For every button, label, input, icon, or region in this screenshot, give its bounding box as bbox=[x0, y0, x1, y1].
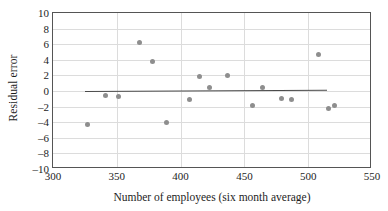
gridline-horizontal bbox=[53, 122, 370, 123]
y-tick-label: –8 bbox=[38, 148, 49, 159]
data-point bbox=[289, 97, 294, 102]
x-tick-label: 400 bbox=[172, 170, 189, 182]
data-point bbox=[85, 122, 90, 127]
y-tick-label: 2 bbox=[44, 70, 50, 81]
data-point bbox=[103, 93, 108, 98]
data-point bbox=[326, 106, 331, 111]
y-tick-label: –2 bbox=[38, 101, 49, 112]
y-tick-label: 6 bbox=[44, 39, 50, 50]
y-axis-title: Residual error bbox=[6, 4, 20, 172]
y-tick-label: 10 bbox=[38, 8, 49, 19]
gridline-horizontal bbox=[53, 107, 370, 108]
y-tick-label: –4 bbox=[38, 117, 49, 128]
gridline-horizontal bbox=[53, 44, 370, 45]
data-point bbox=[164, 120, 169, 125]
data-point bbox=[197, 74, 202, 79]
y-tick-label: 0 bbox=[44, 86, 50, 97]
y-tick-label: –6 bbox=[38, 132, 49, 143]
gridline-horizontal bbox=[53, 60, 370, 61]
plot-area: 1086420–2–4–6–8–10 300350400450500550 bbox=[52, 12, 371, 168]
x-tick-label: 500 bbox=[300, 170, 317, 182]
gridline-horizontal bbox=[53, 75, 370, 76]
gridline-horizontal bbox=[53, 153, 370, 154]
data-point bbox=[150, 59, 155, 64]
x-tick-label: 550 bbox=[364, 170, 381, 182]
data-point bbox=[187, 97, 192, 102]
data-point bbox=[250, 103, 255, 108]
x-tick-label: 450 bbox=[236, 170, 253, 182]
gridline-horizontal bbox=[53, 138, 370, 139]
x-tick-label: 350 bbox=[109, 170, 126, 182]
data-point bbox=[225, 73, 230, 78]
y-tick-label: 8 bbox=[44, 23, 50, 34]
y-tick-label: 4 bbox=[44, 54, 50, 65]
data-point bbox=[116, 94, 121, 99]
data-point bbox=[279, 96, 284, 101]
residual-scatter-chart: Residual error 1086420–2–4–6–8–10 300350… bbox=[0, 0, 388, 211]
x-axis-title: Number of employees (six month average) bbox=[52, 190, 372, 204]
data-point bbox=[316, 52, 321, 57]
gridline-horizontal bbox=[53, 29, 370, 30]
x-tick-label: 300 bbox=[45, 170, 62, 182]
